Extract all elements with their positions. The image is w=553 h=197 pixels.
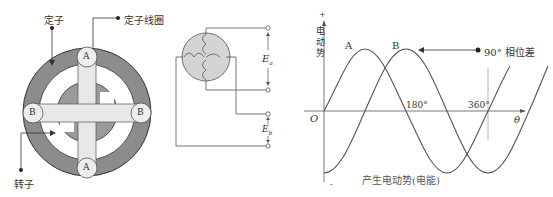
x-axis-label: θ	[514, 114, 520, 125]
coil-a-top-label: A	[83, 51, 90, 61]
stator-label: 定子	[44, 12, 64, 27]
terminal-b2	[266, 144, 270, 148]
circuit-diagram: Ea Eb	[170, 0, 305, 197]
chart-caption: 产生电动势(电能)	[362, 172, 440, 187]
coil-bar-b	[28, 104, 146, 122]
coil-b-left-label: B	[29, 107, 36, 117]
generator-diagram: 定子 定子线圈 转子 A A B B	[0, 0, 175, 197]
series-a-label: A	[345, 40, 352, 51]
eb-label: Eb	[262, 124, 272, 136]
eb-letter: E	[262, 124, 269, 134]
y-minus-sign: -	[330, 180, 333, 189]
eb-subscript: b	[269, 129, 273, 136]
stator-coil-label: 定子线圈	[124, 12, 164, 27]
series-b-label: B	[392, 40, 399, 51]
rotor-label: 转子	[14, 176, 34, 191]
circuit-schematic	[170, 0, 305, 197]
coil-a-bottom-label: A	[83, 162, 90, 172]
terminal-a1	[266, 26, 270, 30]
y-axis-label: 电动势	[316, 26, 326, 59]
emf-waveform	[300, 0, 553, 197]
phase-annotation: 90° 相位差	[484, 44, 535, 59]
terminal-a2	[266, 88, 270, 92]
x-tick-180: 180°	[406, 100, 428, 110]
y-plus-sign: +	[319, 10, 326, 19]
emf-chart: + 电动势 - O θ 180° 360° A B 90° 相位差 产生电动势(…	[300, 0, 553, 197]
x-tick-360: 360°	[468, 100, 490, 110]
coil-b-right-label: B	[137, 107, 144, 117]
origin-label: O	[310, 113, 318, 124]
ea-label: Ea	[262, 53, 273, 66]
ea-subscript: a	[269, 59, 273, 66]
terminal-b1	[266, 112, 270, 116]
